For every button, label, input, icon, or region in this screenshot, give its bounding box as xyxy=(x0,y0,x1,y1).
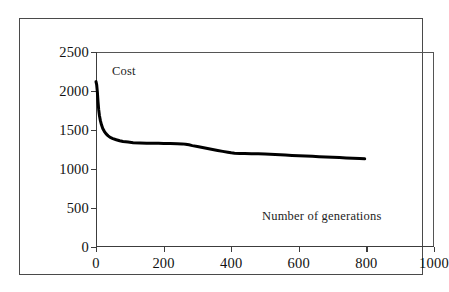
y-tick-label: 2500 xyxy=(59,44,89,61)
y-tick-label: 0 xyxy=(82,239,89,256)
x-tick-label: 1000 xyxy=(419,255,449,272)
x-tick-label: 400 xyxy=(220,255,242,272)
x-tick-label: 800 xyxy=(355,255,377,272)
x-axis-title: Number of generations xyxy=(262,209,381,224)
y-tick-label: 1000 xyxy=(59,161,89,178)
x-tick-mark xyxy=(434,247,435,252)
plot-area: 05001000150020002500 02004006008001000 C… xyxy=(96,52,434,247)
figure-frame: 05001000150020002500 02004006008001000 C… xyxy=(19,18,423,275)
x-tick-mark xyxy=(164,247,165,252)
x-tick-mark xyxy=(231,247,232,252)
x-tick-mark xyxy=(299,247,300,252)
x-tick-label: 200 xyxy=(152,255,174,272)
series-label-cost: Cost xyxy=(112,64,136,79)
x-tick-label: 600 xyxy=(288,255,310,272)
y-tick-label: 1500 xyxy=(59,122,89,139)
y-tick-label: 2000 xyxy=(59,83,89,100)
x-tick-mark xyxy=(96,247,97,252)
x-tick-mark xyxy=(366,247,367,252)
x-tick-label: 0 xyxy=(92,255,99,272)
y-tick-label: 500 xyxy=(67,200,89,217)
